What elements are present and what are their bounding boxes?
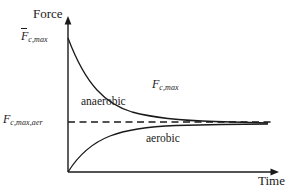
f-c-max-aer-subscript: c,max,aer [10, 118, 42, 127]
force-time-figure: Force Time Fc,max Fc,max,aer Fc,max anae… [0, 0, 306, 194]
x-axis-title: Time [258, 174, 285, 187]
region-label-anaerobic: anaerobic [81, 96, 126, 108]
f-c-max-bar-subscript: c,max [28, 35, 47, 44]
region-label-aerobic: aerobic [146, 133, 180, 145]
f-c-max-subscript: c,max [159, 83, 178, 92]
y-axis-title: Force [33, 7, 63, 20]
y-tick-label-f-c-max-aer: Fc,max,aer [3, 113, 43, 127]
f-symbol-overbar: F [21, 30, 28, 42]
y-axis-arrowhead [65, 16, 72, 25]
y-tick-label-f-c-max-bar: Fc,max [21, 30, 48, 44]
curve-label-f-c-max: Fc,max [152, 78, 179, 92]
